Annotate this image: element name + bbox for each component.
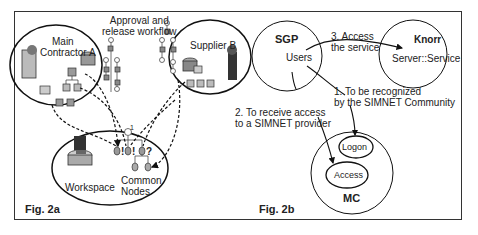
step1-line2: by the SIMNET Community — [334, 97, 455, 108]
logon-label: Logon — [342, 142, 367, 153]
users-label: Users — [286, 52, 312, 63]
workflow-chain-left — [104, 38, 121, 93]
common-nodes-line2: Nodes — [121, 186, 162, 197]
node-mark-2: ! — [132, 146, 135, 157]
step1-label: 1. To be recognized by the SIMNET Commun… — [334, 86, 455, 108]
main-contractor-label-2: Contractor A — [40, 47, 96, 58]
step-number: 1 — [130, 122, 134, 133]
step2-label: 2. To receive access to a SIMNET provide… — [235, 107, 331, 129]
common-nodes-line1: Common — [121, 175, 162, 186]
knorr-label: Knorr — [414, 34, 441, 45]
step3-line2: the service — [331, 42, 379, 53]
fig-2b-caption: Fig. 2b — [259, 204, 294, 215]
fig-2a-caption: Fig. 2a — [25, 204, 60, 215]
access-label: Access — [334, 170, 363, 181]
workflow-label: Approval and release workflow — [102, 15, 176, 37]
supplier-circle — [169, 20, 251, 94]
node-mark-3: ? — [146, 146, 152, 157]
node-mark-1: ! — [121, 146, 124, 157]
main-contractor-line1: Main — [52, 36, 74, 47]
mc-label: MC — [343, 193, 360, 204]
workspace-label: Workspace — [65, 182, 115, 193]
step2-line2: to a SIMNET provider — [235, 118, 331, 129]
step1-line1: 1. To be recognized — [334, 86, 455, 97]
step3-line1: 3. Access — [331, 31, 379, 42]
step3-label: 3. Access the service — [331, 31, 379, 53]
workflow-label-line1: Approval and — [102, 15, 176, 26]
workflow-label-line2: release workflow — [102, 26, 176, 37]
main-contractor-label: Main — [52, 36, 74, 47]
supplier-label: Supplier B — [190, 40, 236, 51]
sgp-label: SGP — [275, 34, 298, 45]
server-service-label: Server::Service — [392, 53, 460, 64]
step2-line1: 2. To receive access — [235, 107, 331, 118]
common-nodes-label: Common Nodes — [121, 175, 162, 197]
